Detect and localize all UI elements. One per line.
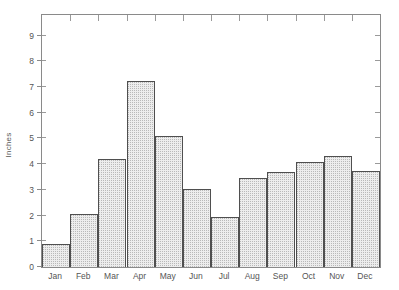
bar-apr[interactable] [127, 81, 155, 267]
bar-dec[interactable] [352, 171, 380, 267]
x-axis-label-dec: Dec [351, 271, 379, 281]
x-axis-label-aug: Aug [238, 271, 266, 281]
y-axis-tick-label: 1 [29, 236, 34, 246]
y-axis-tick-label: 7 [29, 82, 34, 92]
bar-jul[interactable] [211, 217, 239, 267]
x-axis-label-feb: Feb [69, 271, 97, 281]
y-axis-tick-label: 6 [29, 108, 34, 118]
bar-may[interactable] [155, 136, 183, 267]
bars-group [42, 15, 380, 267]
bar-mar[interactable] [98, 159, 126, 267]
bar-jan[interactable] [42, 244, 70, 267]
y-axis-tick-label: 0 [29, 262, 34, 272]
y-axis-title-text: Inches [4, 133, 13, 158]
y-axis-tick-label: 5 [29, 133, 34, 143]
y-axis-title: Inches [0, 0, 16, 290]
x-axis-label-apr: Apr [126, 271, 154, 281]
bar-nov[interactable] [324, 156, 352, 267]
x-axis-label-nov: Nov [323, 271, 351, 281]
plot-area: 0123456789 [41, 14, 381, 268]
bar-chart: Inches 0123456789 JanFebMarAprMayJunJulA… [0, 0, 399, 290]
bar-feb[interactable] [70, 214, 98, 267]
x-axis-label-may: May [154, 271, 182, 281]
x-axis-label-oct: Oct [295, 271, 323, 281]
x-axis-label-jan: Jan [41, 271, 69, 281]
y-axis-tick-label: 8 [29, 56, 34, 66]
y-axis-tick-label: 9 [29, 31, 34, 41]
bar-sep[interactable] [267, 172, 295, 267]
bar-aug[interactable] [239, 178, 267, 267]
y-axis-tick-label: 3 [29, 185, 34, 195]
x-axis-labels: JanFebMarAprMayJunJulAugSepOctNovDec [41, 271, 381, 287]
y-axis-tick-label: 4 [29, 159, 34, 169]
x-axis-label-sep: Sep [266, 271, 294, 281]
x-axis-label-jun: Jun [182, 271, 210, 281]
x-axis-label-mar: Mar [97, 271, 125, 281]
y-axis-tick-label: 2 [29, 211, 34, 221]
bar-oct[interactable] [296, 162, 324, 267]
x-axis-label-jul: Jul [210, 271, 238, 281]
bar-jun[interactable] [183, 189, 211, 267]
